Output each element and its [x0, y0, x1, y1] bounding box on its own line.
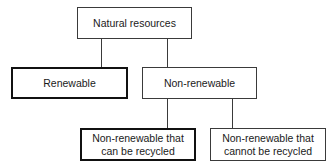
edge-root-to-non-renewable: [167, 38, 168, 67]
node-non-renewable: Non-renewable: [142, 67, 257, 99]
node-label-line1: Non-renewable that: [222, 132, 314, 145]
node-label-line2: can be recycled: [101, 145, 175, 158]
node-non-renewable-recyclable: Non-renewable that can be recycled: [80, 128, 196, 161]
node-label-line1: Non-renewable that: [92, 132, 184, 145]
edge-non-renewable-to-not-recyclable: [232, 99, 233, 128]
edge-non-renewable-to-recyclable: [167, 99, 168, 128]
node-renewable: Renewable: [11, 67, 128, 99]
node-natural-resources: Natural resources: [77, 7, 192, 39]
node-label-line2: cannot be recycled: [224, 145, 312, 158]
edge-root-to-renewable: [101, 38, 102, 67]
node-label: Non-renewable: [164, 77, 235, 90]
node-label: Renewable: [43, 77, 96, 90]
node-label: Natural resources: [93, 17, 176, 30]
node-non-renewable-not-recyclable: Non-renewable that cannot be recycled: [210, 128, 326, 161]
